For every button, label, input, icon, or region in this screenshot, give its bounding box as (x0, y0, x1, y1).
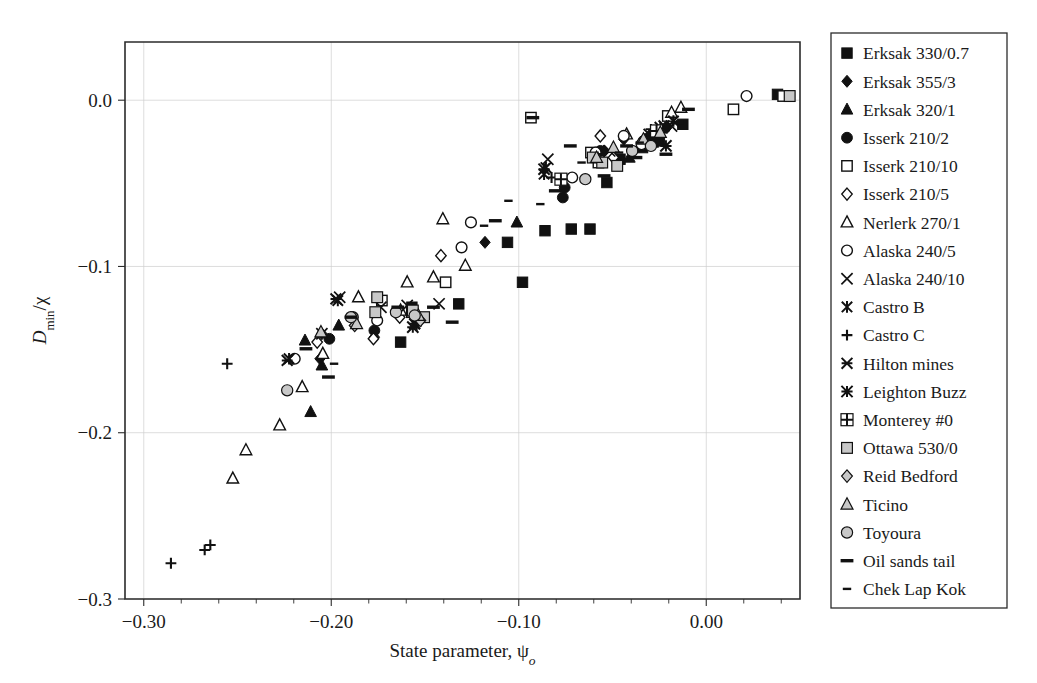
ticks (118, 100, 781, 606)
legend-item-label: Isserk 210/2 (863, 128, 949, 148)
data-point-open-triangle (353, 291, 365, 302)
legend-item-label: Ottawa 530/0 (863, 438, 958, 458)
data-point-open-circle (567, 172, 578, 183)
data-point-filled-square (566, 224, 576, 234)
data-point-open-diamond (436, 250, 446, 262)
data-point-filled-square (842, 48, 852, 58)
y-axis-title: Dmin/χ (29, 296, 57, 345)
legend-item-label: Alaska 240/5 (863, 241, 956, 261)
series-plus (166, 124, 657, 569)
x-axis-title: State parameter, ψo (389, 640, 535, 668)
data-point-grey-square (612, 160, 623, 171)
x-tick-label: −0.10 (497, 611, 541, 632)
legend: Erksak 330/0.7Erksak 355/3Erksak 320/1Is… (831, 33, 1007, 608)
series-grey-square (370, 91, 795, 323)
data-point-open-diamond (595, 130, 605, 142)
data-point-open-circle (289, 353, 300, 364)
data-point-grey-square (370, 307, 381, 318)
data-point-open-triangle (428, 271, 440, 282)
legend-item-label: Isserk 210/10 (863, 156, 958, 176)
data-point-filled-square (517, 277, 527, 287)
data-point-grey-circle (409, 310, 420, 321)
data-point-filled-diamond (480, 236, 490, 248)
data-point-plus (199, 545, 210, 556)
legend-item-label: Monterey #0 (863, 410, 953, 430)
legend-item-label: Erksak 320/1 (863, 100, 956, 120)
data-point-filled-circle (557, 192, 568, 203)
data-point-open-triangle (240, 444, 252, 455)
data-points (166, 89, 796, 568)
data-point-grey-circle (580, 174, 591, 185)
x-tick-label: −0.30 (122, 611, 166, 632)
legend-item-label: Ticino (863, 495, 908, 515)
series-open-square (377, 91, 789, 318)
data-point-star-8 (538, 164, 549, 175)
legend-item-label: Castro C (863, 325, 925, 345)
legend-item-label: Nerlerk 270/1 (863, 213, 961, 233)
chart-svg: −0.30−0.20−0.100.000.0−0.1−0.2−0.3State … (0, 0, 1037, 683)
x-tick-label: −0.20 (309, 611, 353, 632)
series-filled-square (395, 89, 782, 347)
y-axis-title-tail: /χ (29, 296, 50, 310)
data-point-open-triangle (227, 472, 239, 483)
data-point-filled-square (502, 237, 512, 247)
data-point-star-8 (660, 140, 671, 151)
data-point-open-triangle (401, 276, 413, 287)
data-point-filled-circle (842, 132, 853, 143)
legend-item-label: Leighton Buzz (863, 382, 967, 402)
y-tick-label: −0.3 (78, 589, 112, 610)
data-point-filled-triangle (299, 334, 311, 345)
data-point-open-triangle (437, 213, 449, 224)
data-point-plus (222, 358, 233, 369)
data-point-filled-triangle (333, 319, 345, 330)
data-point-grey-square (784, 91, 795, 102)
legend-item-label: Castro B (863, 297, 925, 317)
data-point-filled-square (540, 226, 550, 236)
tick-labels: −0.30−0.20−0.100.000.0−0.1−0.2−0.3 (78, 90, 723, 632)
legend-item-label: Toyoura (863, 523, 921, 543)
legend-item-label: Alaska 240/10 (863, 269, 965, 289)
data-point-filled-square (395, 337, 405, 347)
legend-item-label: Erksak 355/3 (863, 72, 956, 92)
data-point-open-triangle (274, 419, 286, 430)
data-point-plus (205, 540, 216, 551)
data-point-filled-square (585, 224, 595, 234)
data-point-grey-circle (841, 527, 852, 538)
legend-item-label: Hilton mines (863, 354, 954, 374)
data-point-filled-triangle (305, 406, 317, 417)
axis-frame (125, 42, 800, 599)
data-point-filled-square (454, 299, 464, 309)
y-tick-label: −0.1 (78, 256, 112, 277)
data-point-grey-circle (645, 140, 656, 151)
y-tick-label: 0.0 (88, 90, 112, 111)
data-point-plus (166, 558, 177, 569)
data-point-star-8 (841, 386, 852, 397)
y-axis-title-subscript: min (42, 310, 57, 331)
data-point-open-square (842, 161, 852, 171)
data-point-open-triangle (460, 259, 472, 270)
data-point-open-circle (618, 131, 629, 142)
data-point-grey-square (372, 292, 383, 303)
data-point-grey-triangle (607, 141, 619, 152)
data-point-open-square (440, 277, 450, 287)
data-point-open-circle (466, 217, 477, 228)
data-point-open-square (728, 104, 738, 114)
y-axis-title-group: Dmin/χ (29, 296, 57, 345)
y-tick-label: −0.2 (78, 422, 112, 443)
data-point-grey-circle (282, 385, 293, 396)
legend-item-label: Erksak 330/0.7 (863, 43, 969, 63)
data-point-filled-triangle (511, 216, 523, 227)
data-point-grey-square (842, 443, 853, 454)
data-point-open-triangle (296, 381, 308, 392)
scatter-chart-figure: −0.30−0.20−0.100.000.0−0.1−0.2−0.3State … (0, 0, 1037, 683)
x-tick-label: 0.00 (690, 611, 723, 632)
gridlines (125, 42, 800, 599)
data-point-open-circle (456, 242, 467, 253)
data-point-filled-square (602, 177, 612, 187)
x-axis-title-subscript: o (529, 653, 536, 668)
plot-border (125, 42, 800, 599)
legend-item-label: Isserk 210/5 (863, 184, 949, 204)
data-point-open-circle (741, 91, 752, 102)
legend-item-label: Oil sands tail (863, 551, 955, 571)
data-point-open-circle (842, 245, 853, 256)
